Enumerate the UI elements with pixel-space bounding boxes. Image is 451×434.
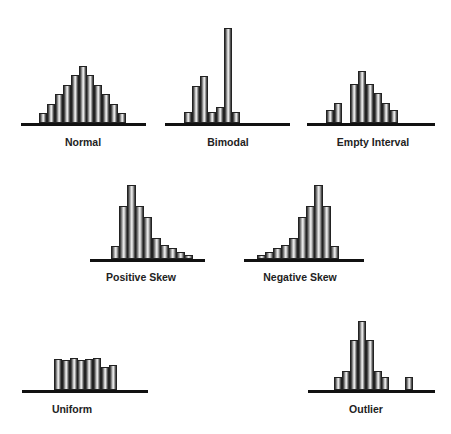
histogram-bar <box>55 94 63 123</box>
histogram-bar <box>86 75 94 123</box>
histogram-bar <box>208 112 216 123</box>
histogram-bar <box>374 371 382 390</box>
histogram-bar <box>192 86 200 123</box>
histogram-label: Uniform <box>12 403 132 415</box>
histogram-label: Bimodal <box>168 136 288 148</box>
x-axis-line <box>90 259 205 262</box>
histogram-bar <box>79 66 87 123</box>
histogram-label: Empty Interval <box>313 136 433 148</box>
histogram-bar <box>94 85 102 123</box>
histogram-bar <box>381 377 389 390</box>
x-axis-line <box>244 259 364 262</box>
x-axis-line <box>22 390 148 393</box>
histogram-bar <box>63 85 71 123</box>
histogram-bar <box>366 84 374 123</box>
histogram-bar <box>200 76 208 123</box>
histogram-bar <box>216 107 224 123</box>
histogram-bar <box>85 359 93 390</box>
histogram-bar <box>54 359 62 390</box>
histogram-bar <box>71 75 79 123</box>
histogram-bar <box>224 28 232 123</box>
histogram-bar <box>366 340 374 390</box>
histogram-bar <box>382 103 390 123</box>
histogram-bar <box>358 321 366 390</box>
histogram-bar <box>109 365 117 390</box>
histogram-bar <box>342 371 350 390</box>
histogram-bar <box>184 112 192 123</box>
x-axis-line <box>308 390 435 393</box>
histogram-bar <box>110 104 118 123</box>
histogram-bar <box>93 358 101 390</box>
histogram-bar <box>102 94 110 123</box>
histogram-bar <box>350 340 358 390</box>
histogram-label: Normal <box>23 136 143 148</box>
histogram-bar <box>334 377 342 390</box>
histogram-bar <box>118 113 126 123</box>
histogram-bar <box>47 104 55 123</box>
histogram-label: Outlier <box>306 403 426 415</box>
histogram-bar <box>70 358 78 390</box>
histogram-bar <box>405 377 413 390</box>
histogram-bar <box>62 360 70 390</box>
histogram-bar <box>101 367 109 390</box>
x-axis-line <box>307 123 435 126</box>
histogram-bar <box>350 84 358 123</box>
histogram-bar <box>184 255 193 259</box>
histogram-bar <box>390 110 398 123</box>
x-axis-line <box>21 123 146 126</box>
histogram-bar <box>374 93 382 123</box>
histogram-bar <box>358 71 366 123</box>
histogram-label: Positive Skew <box>81 271 201 283</box>
x-axis-line <box>165 123 290 126</box>
histogram-bar <box>326 110 334 123</box>
histogram-bar <box>232 112 240 123</box>
histogram-bar <box>39 113 47 123</box>
histogram-bar <box>334 103 342 123</box>
histogram-bar <box>330 246 339 259</box>
histogram-label: Negative Skew <box>240 271 360 283</box>
histogram-bar <box>77 360 85 390</box>
